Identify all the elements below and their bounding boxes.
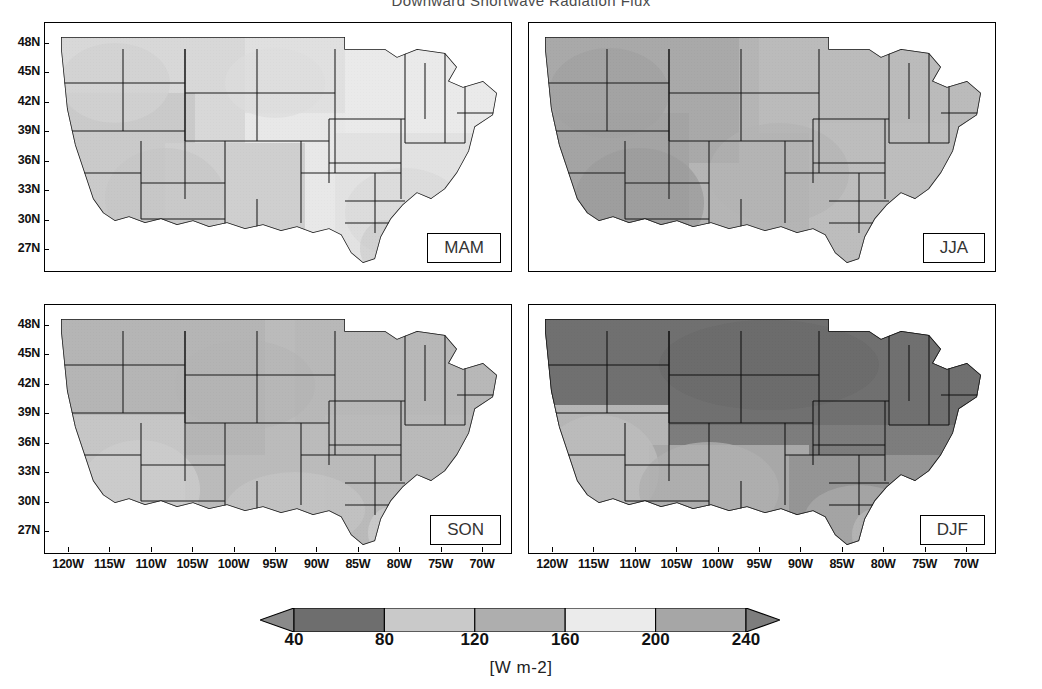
xtick-label: 105W [170, 557, 214, 571]
season-label-son: SON [430, 515, 501, 545]
ytick-label: 48N [0, 35, 40, 49]
panel-mam: MAM [44, 22, 512, 272]
colorbar-segment [656, 608, 746, 632]
season-label-djf: DJF [920, 515, 985, 545]
xtick-label: 100W [696, 557, 740, 571]
xtick-mark [441, 547, 442, 552]
colorbar-tick-label: 160 [551, 630, 579, 650]
colorbar [260, 608, 780, 632]
ytick-mark [44, 220, 49, 221]
ytick-label: 48N [0, 317, 40, 331]
panel-son: SON [44, 304, 512, 554]
ytick-mark [44, 249, 49, 250]
colorbar-tick-label: 80 [375, 630, 394, 650]
xtick-mark [552, 547, 553, 552]
ytick-label: 36N [0, 153, 40, 167]
xtick-mark [68, 547, 69, 552]
colorbar-group: 4080120160200240 [W m-2] [0, 600, 1042, 689]
ytick-mark [44, 190, 49, 191]
xtick-label: 90W [294, 557, 338, 571]
colorbar-segment [294, 608, 384, 632]
ytick-mark [44, 72, 49, 73]
xtick-mark [966, 547, 967, 552]
season-label-jja: JJA [923, 233, 985, 263]
colorbar-segment [384, 608, 474, 632]
ytick-label: 42N [0, 94, 40, 108]
xtick-label: 80W [861, 557, 905, 571]
ytick-label: 45N [0, 346, 40, 360]
ytick-label: 36N [0, 435, 40, 449]
figure-root: Downward Shortwave Radiation Flux [0, 0, 1042, 689]
xtick-mark [482, 547, 483, 552]
xtick-label: 115W [87, 557, 131, 571]
colorbar-svg [260, 608, 780, 632]
ytick-mark [44, 531, 49, 532]
xtick-label: 75W [419, 557, 463, 571]
ytick-mark [44, 161, 49, 162]
ytick-label: 27N [0, 241, 40, 255]
xtick-label: 70W [460, 557, 504, 571]
ytick-mark [44, 384, 49, 385]
colorbar-segment [565, 608, 655, 632]
xtick-mark [759, 547, 760, 552]
xtick-label: 95W [253, 557, 297, 571]
xtick-mark [192, 547, 193, 552]
ytick-mark [44, 325, 49, 326]
ytick-mark [44, 502, 49, 503]
xtick-mark [925, 547, 926, 552]
xtick-label: 100W [212, 557, 256, 571]
colorbar-extend-high [746, 608, 780, 632]
ytick-label: 42N [0, 376, 40, 390]
xtick-label: 70W [944, 557, 988, 571]
colorbar-tick-label: 200 [641, 630, 669, 650]
xtick-label: 120W [46, 557, 90, 571]
season-label-mam: MAM [427, 233, 501, 263]
xtick-label: 85W [336, 557, 380, 571]
colorbar-tick-label: 40 [285, 630, 304, 650]
xtick-label: 120W [530, 557, 574, 571]
colorbar-extend-low [260, 608, 294, 632]
ytick-label: 33N [0, 182, 40, 196]
panel-djf: DJF [528, 304, 996, 554]
ytick-label: 45N [0, 64, 40, 78]
xtick-mark [593, 547, 594, 552]
xtick-mark [316, 547, 317, 552]
xtick-mark [842, 547, 843, 552]
xtick-label: 80W [377, 557, 421, 571]
figure-title: Downward Shortwave Radiation Flux [0, 0, 1042, 9]
xtick-mark [358, 547, 359, 552]
ytick-mark [44, 43, 49, 44]
ytick-label: 27N [0, 523, 40, 537]
xtick-mark [234, 547, 235, 552]
ytick-mark [44, 131, 49, 132]
xtick-mark [109, 547, 110, 552]
ytick-label: 33N [0, 464, 40, 478]
ytick-label: 30N [0, 494, 40, 508]
xtick-mark [883, 547, 884, 552]
colorbar-units: [W m-2] [0, 658, 1042, 678]
ytick-mark [44, 102, 49, 103]
ytick-label: 30N [0, 212, 40, 226]
panel-jja: JJA [528, 22, 996, 272]
ytick-mark [44, 443, 49, 444]
ytick-label: 39N [0, 405, 40, 419]
xtick-label: 115W [571, 557, 615, 571]
xtick-mark [635, 547, 636, 552]
xtick-mark [275, 547, 276, 552]
ytick-mark [44, 354, 49, 355]
xtick-mark [151, 547, 152, 552]
xtick-label: 95W [737, 557, 781, 571]
colorbar-tick-label: 120 [461, 630, 489, 650]
ytick-label: 39N [0, 123, 40, 137]
xtick-mark [800, 547, 801, 552]
xtick-label: 105W [654, 557, 698, 571]
colorbar-segment [475, 608, 565, 632]
xtick-label: 85W [820, 557, 864, 571]
colorbar-tick-label: 240 [732, 630, 760, 650]
xtick-mark [676, 547, 677, 552]
colorbar-tick-labels: 4080120160200240 [260, 630, 780, 652]
ytick-mark [44, 413, 49, 414]
xtick-label: 90W [778, 557, 822, 571]
xtick-label: 110W [129, 557, 173, 571]
xtick-label: 75W [903, 557, 947, 571]
